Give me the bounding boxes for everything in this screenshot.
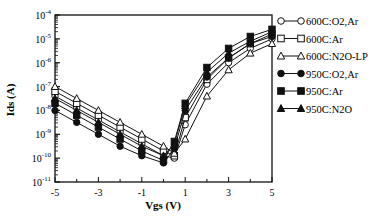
x-tick-label: -1 — [138, 187, 146, 198]
y-tick-label: 10-7 — [35, 80, 51, 93]
y-tick-label: 10-11 — [32, 175, 52, 188]
legend-item: 600C:N2O-LP — [277, 51, 368, 62]
legend-label: 600C:Ar — [306, 34, 343, 45]
legend-item: 600C:O2,Ar — [278, 16, 359, 27]
y-tick-label: 10-10 — [32, 151, 52, 164]
x-tick-label: 5 — [270, 187, 275, 198]
legend-label: 600C:N2O-LP — [306, 51, 368, 62]
legend-label: 950C:N2O — [306, 104, 353, 115]
series-600c-ar — [52, 31, 275, 159]
legend-item: 600C:Ar — [278, 34, 344, 45]
legend: 600C:O2,Ar600C:Ar600C:N2O-LP950C:O2,Ar95… — [277, 16, 368, 115]
iv-chart: 10-410-510-610-710-810-910-1010-11 -5-3-… — [0, 0, 383, 220]
legend-item: 950C:N2O — [277, 104, 352, 115]
x-tick-label: -5 — [51, 187, 59, 198]
x-tick-label: 3 — [226, 187, 231, 198]
y-axis-title: Ids (A) — [4, 83, 17, 116]
y-tick-label: 10-4 — [35, 8, 51, 21]
series-600c-n2o-lp — [51, 40, 275, 156]
y-tick-label: 10-9 — [35, 127, 51, 140]
legend-label: 950C:Ar — [306, 86, 343, 97]
legend-label: 950C:O2,Ar — [306, 69, 359, 80]
y-tick-label: 10-8 — [35, 103, 51, 116]
x-tick-label: 1 — [183, 187, 188, 198]
series-950c-n2o — [51, 28, 275, 159]
series-layer — [51, 26, 275, 166]
y-tick-label: 10-6 — [35, 56, 51, 69]
x-axis-title: Vgs (V) — [145, 199, 181, 212]
x-axis: -5-3-1135 — [51, 177, 275, 198]
x-tick-label: -3 — [94, 187, 102, 198]
legend-item: 950C:O2,Ar — [278, 69, 359, 80]
legend-item: 950C:Ar — [278, 86, 344, 97]
y-tick-label: 10-5 — [35, 32, 51, 45]
legend-label: 600C:O2,Ar — [306, 16, 359, 27]
